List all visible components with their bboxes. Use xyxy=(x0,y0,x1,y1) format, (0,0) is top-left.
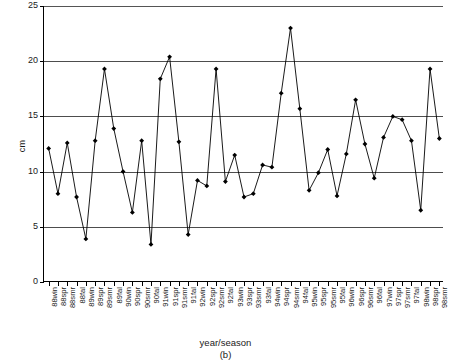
data-point-marker xyxy=(130,210,135,215)
x-tick-label: 95spr xyxy=(320,287,328,306)
data-point-marker xyxy=(307,188,312,193)
x-tick-label: 94win xyxy=(274,287,282,307)
x-tick-mark xyxy=(86,282,87,286)
x-tick-label: 97spr xyxy=(395,287,403,306)
data-point-marker xyxy=(297,106,302,111)
data-point-marker xyxy=(223,179,228,184)
x-tick-mark xyxy=(309,282,310,286)
chart-figure: cm 0510152025 88win88spr88smr88fal89win8… xyxy=(0,0,451,361)
x-tick-label: 96win xyxy=(348,287,356,307)
data-point-marker xyxy=(437,136,442,141)
data-point-marker xyxy=(186,232,191,237)
x-tick-label: 94spr xyxy=(283,287,291,306)
x-tick-label: 89smr xyxy=(106,287,114,308)
data-point-marker xyxy=(149,242,154,247)
data-point-marker xyxy=(214,67,219,72)
data-point-marker xyxy=(288,26,293,31)
x-tick-label: 89win xyxy=(88,287,96,307)
data-point-marker xyxy=(56,191,61,196)
x-tick-label: 88smr xyxy=(69,287,77,308)
x-tick-mark xyxy=(160,282,161,286)
data-point-marker xyxy=(111,126,116,131)
x-tick-label: 93smr xyxy=(255,287,263,308)
x-tick-mark xyxy=(188,282,189,286)
x-tick-mark xyxy=(95,282,96,286)
data-point-marker xyxy=(65,140,70,145)
data-point-marker xyxy=(121,169,126,174)
x-tick-mark xyxy=(430,282,431,286)
x-tick-label: 88spr xyxy=(60,287,68,306)
x-tick-mark xyxy=(67,282,68,286)
x-tick-label: 90spr xyxy=(134,287,142,306)
x-tick-label: 98win xyxy=(423,287,431,307)
x-tick-label: 97fal xyxy=(413,287,421,303)
x-tick-label: 91spr xyxy=(172,287,180,306)
x-tick-label: 93spr xyxy=(246,287,254,306)
plot-area xyxy=(43,6,443,282)
x-tick-mark xyxy=(402,282,403,286)
x-tick-mark xyxy=(374,282,375,286)
data-point-marker xyxy=(260,163,265,168)
x-tick-mark xyxy=(346,282,347,286)
x-tick-label: 91fal xyxy=(190,287,198,303)
x-tick-mark xyxy=(281,282,282,286)
x-tick-mark xyxy=(170,282,171,286)
x-tick-label: 91smr xyxy=(181,287,189,308)
x-tick-label: 97win xyxy=(386,287,394,307)
x-tick-label: 96spr xyxy=(358,287,366,306)
x-tick-label: 92win xyxy=(199,287,207,307)
x-tick-mark xyxy=(291,282,292,286)
x-tick-mark xyxy=(142,282,143,286)
x-tick-label: 98spr xyxy=(432,287,440,306)
data-point-marker xyxy=(390,114,395,119)
x-tick-label: 90smr xyxy=(144,287,152,308)
x-tick-label: 95fal xyxy=(339,287,347,303)
data-point-marker xyxy=(195,178,200,183)
x-tick-mark xyxy=(439,282,440,286)
data-point-marker xyxy=(372,176,377,181)
x-tick-label: 91win xyxy=(162,287,170,307)
data-point-marker xyxy=(74,195,79,200)
y-tick-label: 5 xyxy=(12,222,38,231)
x-tick-label: 90fal xyxy=(153,287,161,303)
x-tick-mark xyxy=(263,282,264,286)
x-tick-label: 88fal xyxy=(79,287,87,303)
x-tick-mark xyxy=(300,282,301,286)
x-tick-mark xyxy=(235,282,236,286)
x-tick-mark xyxy=(356,282,357,286)
data-point-marker xyxy=(232,153,237,158)
data-point-marker xyxy=(409,138,414,143)
y-tick-mark xyxy=(40,282,44,283)
x-tick-mark xyxy=(216,282,217,286)
x-tick-label: 97smr xyxy=(404,287,412,308)
x-tick-mark xyxy=(77,282,78,286)
data-point-marker xyxy=(242,195,247,200)
data-point-marker xyxy=(325,147,330,152)
data-point-marker xyxy=(139,138,144,143)
y-tick-label: 25 xyxy=(12,1,38,10)
x-tick-mark xyxy=(318,282,319,286)
x-tick-mark xyxy=(411,282,412,286)
data-point-marker xyxy=(93,138,98,143)
x-tick-mark xyxy=(253,282,254,286)
data-point-marker xyxy=(335,193,340,198)
y-axis-title: cm xyxy=(17,126,27,166)
data-point-marker xyxy=(344,152,349,157)
data-point-marker xyxy=(83,237,88,242)
data-point-marker xyxy=(363,142,368,147)
x-tick-mark xyxy=(207,282,208,286)
data-point-marker xyxy=(353,97,358,102)
x-tick-mark xyxy=(337,282,338,286)
data-point-marker xyxy=(418,208,423,213)
x-tick-mark xyxy=(132,282,133,286)
data-point-marker xyxy=(316,170,321,175)
x-tick-mark xyxy=(123,282,124,286)
x-tick-mark xyxy=(393,282,394,286)
data-point-marker xyxy=(428,67,433,72)
y-tick-label: 0 xyxy=(12,277,38,286)
x-tick-mark xyxy=(49,282,50,286)
data-point-marker xyxy=(270,165,275,170)
x-axis-title: year/season xyxy=(0,337,451,348)
data-point-marker xyxy=(279,91,284,96)
x-tick-mark xyxy=(328,282,329,286)
